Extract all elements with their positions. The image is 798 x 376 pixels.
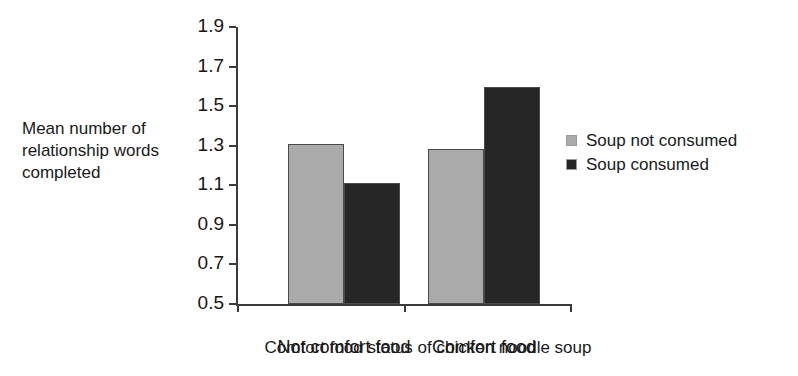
x-axis-title: Comfort food status of chicken noodle so… bbox=[0, 337, 798, 358]
y-axis-tick-label: 0.7 bbox=[198, 252, 224, 273]
legend-item-label: Soup consumed bbox=[586, 154, 709, 175]
y-axis-title-line-1: Mean number of bbox=[22, 118, 202, 140]
y-axis-line bbox=[236, 27, 238, 306]
y-axis-tick-label: 1.5 bbox=[198, 94, 224, 115]
chart-legend: Soup not consumedSoup consumed bbox=[566, 128, 786, 176]
bar bbox=[428, 149, 484, 304]
y-axis-tick: 0.9 bbox=[229, 224, 236, 226]
bar bbox=[288, 144, 344, 304]
y-axis-tick: 1.3 bbox=[229, 145, 236, 147]
y-axis-tick-label: 1.1 bbox=[198, 173, 224, 194]
bar bbox=[484, 87, 540, 304]
x-axis-tick bbox=[570, 304, 572, 312]
legend-swatch-icon bbox=[566, 135, 577, 146]
plot-area: 1.91.71.51.31.10.90.70.5 Not comfort foo… bbox=[236, 27, 572, 305]
x-axis-tick bbox=[404, 304, 406, 312]
legend-item: Soup consumed bbox=[566, 152, 786, 176]
legend-swatch-icon bbox=[566, 159, 577, 170]
y-axis-tick-label: 1.7 bbox=[198, 55, 224, 76]
y-axis-tick: 0.7 bbox=[229, 263, 236, 265]
y-axis-tick-label: 0.5 bbox=[198, 292, 224, 313]
y-axis-tick: 1.9 bbox=[229, 26, 236, 28]
x-axis-tick bbox=[237, 304, 239, 312]
y-axis-tick: 0.5 bbox=[229, 303, 236, 305]
y-axis-tick-label: 1.3 bbox=[198, 134, 224, 155]
y-axis-tick: 1.1 bbox=[229, 184, 236, 186]
y-axis-title-line-2: relationship words bbox=[22, 140, 202, 162]
y-axis-tick: 1.5 bbox=[229, 105, 236, 107]
legend-item: Soup not consumed bbox=[566, 128, 786, 152]
y-axis-tick-label: 0.9 bbox=[198, 213, 224, 234]
y-axis-tick-label: 1.9 bbox=[198, 15, 224, 36]
y-axis-tick: 1.7 bbox=[229, 66, 236, 68]
y-axis-title-line-3: completed bbox=[22, 162, 202, 184]
legend-item-label: Soup not consumed bbox=[586, 130, 737, 151]
y-axis-title: Mean number of relationship words comple… bbox=[22, 118, 202, 184]
bar-chart-figure: Mean number of relationship words comple… bbox=[0, 0, 798, 376]
bar bbox=[344, 183, 400, 304]
